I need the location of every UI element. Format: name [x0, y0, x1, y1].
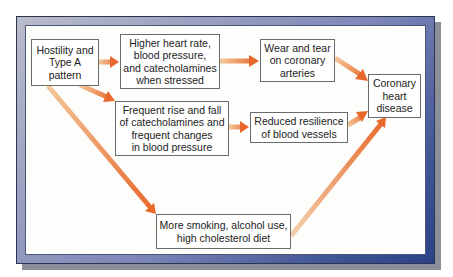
node-frequent-rise-fall: Frequent rise and fall of catecholamines… — [115, 101, 229, 156]
node-wear-and-tear: Wear and tear on coronary arteries — [260, 39, 335, 82]
node-reduced-resilience: Reduced resilience of blood vessels — [250, 112, 348, 143]
node-higher-heart-rate: Higher heart rate, blood pressure, and c… — [120, 34, 220, 89]
node-smoking-alcohol-diet: More smoking, alcohol use, high choleste… — [156, 214, 291, 249]
node-hostility: Hostility and Type A pattern — [31, 39, 99, 86]
node-coronary-heart-disease: Coronary heart disease — [368, 74, 421, 118]
